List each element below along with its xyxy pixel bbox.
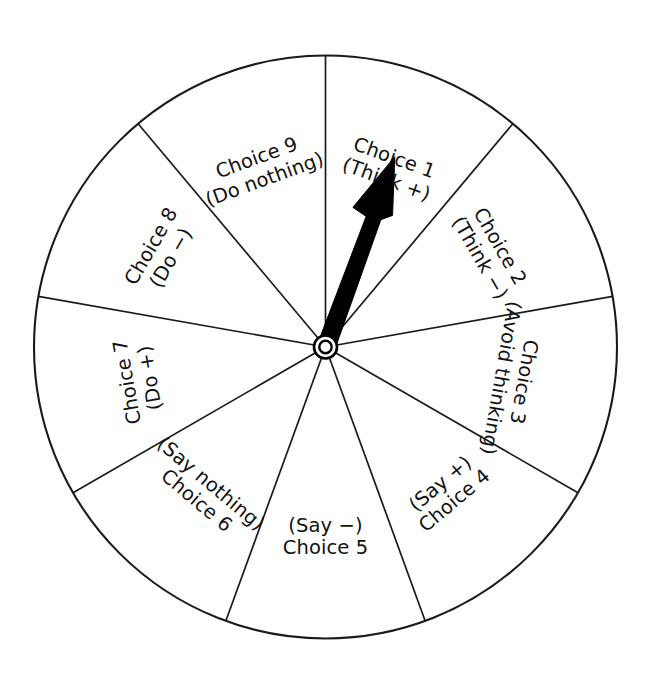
wheel-canvas: Choice 1(Think +)Choice 2(Think −)Choice… — [0, 0, 653, 692]
sector-number-5: Choice 5 — [283, 536, 368, 559]
hub-inner-ring — [319, 341, 331, 353]
choice-wheel-diagram: Choice 1(Think +)Choice 2(Think −)Choice… — [0, 0, 653, 692]
sector-label-5: (Say −)Choice 5 — [283, 514, 368, 559]
center-hub-group — [314, 336, 337, 359]
sector-detail-5: (Say −) — [288, 514, 362, 537]
sector-5[interactable]: (Say −)Choice 5 — [283, 514, 368, 559]
